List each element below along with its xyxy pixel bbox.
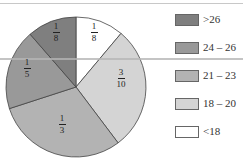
legend-label: >26 — [203, 13, 220, 25]
legend-item-over-26: >26 — [175, 14, 243, 28]
denominator: 8 — [54, 33, 59, 43]
legend-item-18-20: 18 – 20 — [175, 98, 243, 112]
pie-chart — [0, 0, 160, 160]
legend-label: 18 – 20 — [203, 97, 236, 109]
numerator: 1 — [60, 113, 65, 123]
denominator: 3 — [60, 125, 65, 135]
denominator: 8 — [92, 33, 97, 43]
legend-swatch — [175, 42, 199, 54]
denominator: 5 — [25, 69, 30, 79]
legend-swatch — [175, 14, 199, 26]
denominator: 10 — [117, 79, 126, 89]
legend-swatch — [175, 126, 199, 138]
page-rule-mid — [0, 58, 243, 60]
legend-swatch — [175, 70, 199, 82]
legend-label: 21 – 23 — [203, 69, 236, 81]
legend-swatch — [175, 98, 199, 110]
slice-label-21-23: 13 — [54, 114, 70, 135]
legend-item-24-26: 24 – 26 — [175, 42, 243, 56]
numerator: 1 — [54, 21, 59, 31]
legend-item-under-18: <18 — [175, 126, 243, 140]
legend-item-21-23: 21 – 23 — [175, 70, 243, 84]
numerator: 1 — [25, 57, 30, 67]
slice-label-18-20: 310 — [113, 68, 129, 89]
numerator: 3 — [119, 67, 124, 77]
slice-label-over-26: 18 — [48, 22, 64, 43]
numerator: 1 — [92, 21, 97, 31]
slice-label-under-18: 18 — [86, 22, 102, 43]
slice-label-24-26: 15 — [19, 58, 35, 79]
legend-label: <18 — [203, 125, 220, 137]
legend-label: 24 – 26 — [203, 41, 236, 53]
